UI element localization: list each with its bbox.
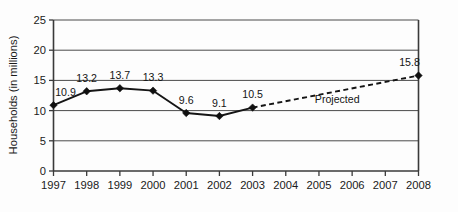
x-tick-label: 2001 (174, 179, 199, 191)
data-point-marker (116, 85, 123, 92)
data-series (54, 76, 419, 116)
x-tick-label: 2000 (141, 179, 166, 191)
x-tick-label: 2006 (340, 179, 365, 191)
data-point-label: 13.3 (143, 71, 164, 83)
data-point-label: 10.5 (242, 88, 263, 100)
y-tick-label: 25 (34, 14, 46, 26)
data-point-marker (415, 72, 422, 79)
gridlines (54, 20, 419, 141)
chart-annotations: Projected (315, 93, 360, 105)
plot-frame (54, 20, 419, 171)
y-axis-tick-labels: 0510152025 (34, 14, 46, 177)
y-tick-label: 15 (34, 74, 46, 86)
x-tick-label: 1999 (107, 179, 132, 191)
line-chart: 0510152025 19971998199920002001200220032… (0, 0, 458, 212)
y-tick-label: 0 (40, 165, 46, 177)
x-tick-label: 2005 (307, 179, 332, 191)
data-point-marker (83, 88, 90, 95)
x-tick-label: 2002 (207, 179, 232, 191)
x-tick-label: 2007 (373, 179, 398, 191)
x-tick-label: 2003 (240, 179, 265, 191)
x-tick-label: 2008 (406, 179, 431, 191)
data-point-label: 9.6 (179, 94, 194, 106)
data-point-label: 15.8 (399, 56, 420, 68)
projected-annotation-label: Projected (315, 93, 360, 105)
data-point-marker (216, 112, 223, 119)
x-tick-label: 1998 (74, 179, 99, 191)
data-point-marker (50, 101, 57, 108)
data-point-label: 10.9 (55, 86, 76, 98)
data-point-label: 9.1 (212, 97, 227, 109)
x-tick-label: 2004 (273, 179, 298, 191)
data-point-labels: 10.913.213.713.39.69.110.515.8 (55, 56, 420, 108)
data-point-label: 13.7 (110, 69, 131, 81)
y-tick-label: 10 (34, 105, 46, 117)
x-tick-label: 1997 (41, 179, 66, 191)
x-axis-tick-labels: 1997199819992000200120022003200420052006… (41, 179, 431, 191)
y-tick-label: 20 (34, 44, 46, 56)
y-axis-title: Households (in millions) (7, 35, 19, 154)
chart-container: 0510152025 19971998199920002001200220032… (0, 0, 458, 212)
data-point-label: 13.2 (76, 72, 97, 84)
y-tick-label: 5 (40, 135, 46, 147)
